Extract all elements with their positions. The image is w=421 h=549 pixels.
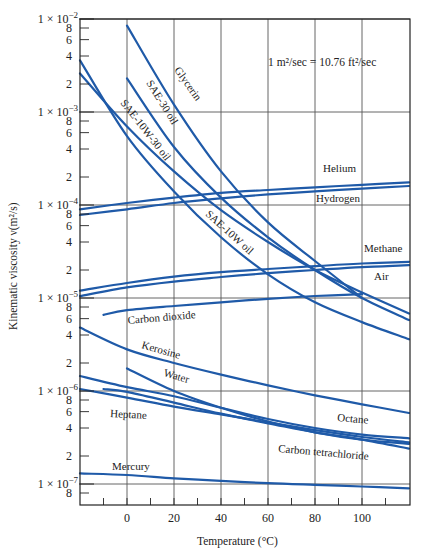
- x-tick-label: 0: [124, 511, 130, 525]
- x-tick-label: 60: [262, 511, 274, 525]
- y-tick-label: 1 × 10−6: [38, 382, 79, 398]
- label-kerosine: Kerosine: [140, 338, 182, 361]
- y-minor-label: 2: [66, 356, 72, 370]
- plot-frame: [80, 19, 410, 505]
- y-tick-label: 1 × 10−7: [38, 475, 79, 491]
- y-minor-label: 2: [66, 170, 72, 184]
- y-minor-label: 4: [66, 235, 72, 249]
- x-tick-label: 40: [215, 511, 227, 525]
- label-mercury: Mercury: [112, 460, 150, 472]
- label-ccl4: Carbon tetrachloride: [278, 442, 370, 462]
- unit-conversion-note: 1 m²/sec = 10.76 ft²/sec: [268, 56, 376, 68]
- y-minor-label: 6: [66, 405, 72, 419]
- y-minor-label: 2: [66, 263, 72, 277]
- y-minor-label: 4: [66, 328, 72, 342]
- label-glycerin: Glycerin: [172, 64, 204, 103]
- y-minor-label: 2: [66, 449, 72, 463]
- label-air: Air: [374, 270, 389, 282]
- y-tick-label: 1 × 10−4: [38, 196, 79, 212]
- label-hydrogen: Hydrogen: [316, 192, 360, 204]
- label-helium: Helium: [323, 162, 356, 174]
- y-minor-label: 4: [66, 49, 72, 63]
- x-tick-label: 80: [309, 511, 321, 525]
- label-sae10w: SAE-10W oil: [204, 208, 257, 257]
- y-minor-label: 8: [66, 486, 72, 500]
- y-axis-title: Kinematic viscosity ν(m²/s): [7, 202, 20, 330]
- label-octane: Octane: [337, 411, 369, 426]
- y-minor-label: 6: [66, 126, 72, 140]
- curve-carbon-dioxide: [104, 294, 363, 315]
- y-minor-label: 4: [66, 421, 72, 435]
- y-minor-label: 2: [66, 77, 72, 91]
- label-methane: Methane: [364, 242, 403, 254]
- y-minor-label: 6: [66, 33, 72, 47]
- y-tick-label: 1 × 10−5: [38, 289, 79, 305]
- x-tick-label: 100: [353, 511, 371, 525]
- grid-lines: [80, 19, 410, 505]
- label-water: Water: [162, 366, 191, 385]
- x-tick-label: 20: [168, 511, 180, 525]
- viscosity-chart: 0204060801001 × 10−286421 × 10−386421 × …: [0, 0, 421, 549]
- y-tick-label: 1 × 10−3: [38, 103, 79, 119]
- y-minor-label: 6: [66, 219, 72, 233]
- curve-mercury: [80, 473, 409, 488]
- y-minor-label: 6: [66, 312, 72, 326]
- y-minor-label: 4: [66, 142, 72, 156]
- x-axis-title: Temperature (°C): [197, 535, 278, 548]
- label-heptane: Heptane: [110, 407, 147, 421]
- label-co2: Carbon dioxide: [127, 308, 196, 326]
